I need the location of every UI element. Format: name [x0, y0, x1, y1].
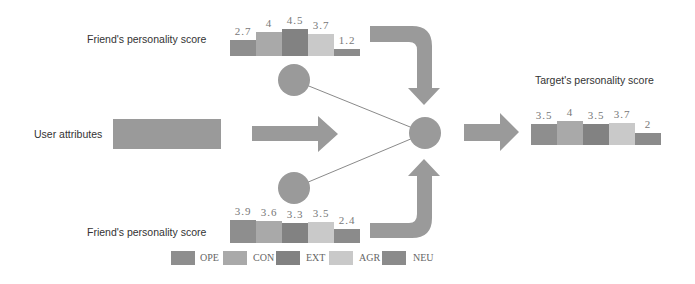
legend-label-ext: EXT [306, 252, 325, 263]
legend-label-ope: OPE [200, 252, 219, 263]
arrow-curved-down-icon [370, 26, 440, 105]
legend-swatch-agr [329, 251, 353, 265]
legend-swatch-ope [171, 251, 195, 265]
connector-line-bottom [294, 133, 425, 188]
arrow-right-output-icon [464, 113, 519, 151]
hidden-node-top [278, 64, 310, 96]
arrow-curved-up-icon [370, 159, 440, 238]
connector-line-top [294, 80, 425, 133]
legend-label-agr: AGR [359, 252, 380, 263]
legend-label-neu: NEU [413, 252, 434, 263]
diagram-shapes [0, 0, 695, 284]
legend-swatch-ext [276, 251, 300, 265]
output-node [409, 117, 441, 149]
arrow-right-middle-icon [252, 116, 338, 152]
legend-label-con: CON [253, 252, 274, 263]
legend-swatch-con [223, 251, 247, 265]
legend-swatch-neu [382, 251, 406, 265]
hidden-node-bottom [278, 172, 310, 204]
